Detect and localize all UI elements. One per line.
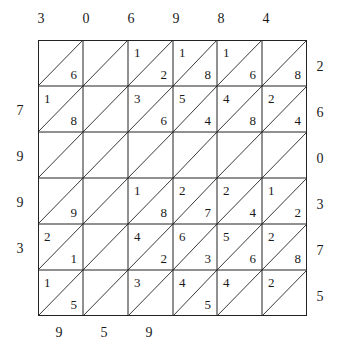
tens-digit: 1 — [223, 46, 230, 59]
multiplicand-digit: 6 — [121, 12, 141, 26]
lattice-cell: 18 — [38, 86, 83, 132]
result-digit: 9 — [10, 150, 30, 164]
multiplier-digit: 7 — [310, 244, 330, 258]
lattice-cell: 54 — [173, 86, 217, 132]
tens-digit: 1 — [134, 184, 141, 197]
lattice-cell — [217, 132, 262, 178]
ones-digit: 5 — [71, 298, 78, 311]
tens-digit: 4 — [134, 230, 141, 243]
multiplier-digit: 2 — [310, 60, 330, 74]
lattice-cell: 21 — [38, 224, 83, 270]
ones-digit: 5 — [205, 298, 212, 311]
tens-digit: 1 — [44, 92, 51, 105]
result-digit: 9 — [49, 326, 69, 340]
lattice-cell: 24 — [217, 178, 262, 224]
multiplicand-digit: 4 — [256, 12, 276, 26]
tens-digit: 1 — [268, 184, 275, 197]
tens-digit: 1 — [44, 276, 51, 289]
multiplier-digit: 0 — [310, 152, 330, 166]
ones-digit: 2 — [295, 206, 302, 219]
result-digit: 9 — [139, 326, 159, 340]
lattice-cell: 9 — [38, 178, 83, 224]
ones-digit: 8 — [71, 114, 78, 127]
ones-digit: 8 — [205, 68, 212, 81]
lattice-cell — [83, 270, 128, 316]
tens-digit: 2 — [268, 230, 275, 243]
lattice-cell — [83, 224, 128, 270]
tens-digit: 1 — [134, 46, 141, 59]
lattice-cell: 28 — [262, 224, 307, 270]
ones-digit: 7 — [205, 206, 212, 219]
tens-digit: 1 — [179, 46, 186, 59]
tens-digit: 5 — [179, 92, 186, 105]
ones-digit: 1 — [71, 252, 78, 265]
lattice-cell: 12 — [262, 178, 307, 224]
tens-digit: 2 — [44, 230, 51, 243]
lattice-cell: 18 — [128, 178, 173, 224]
lattice-cell: 3 — [128, 270, 173, 316]
tens-digit: 2 — [223, 184, 230, 197]
tens-digit: 3 — [134, 92, 141, 105]
lattice-cell: 63 — [173, 224, 217, 270]
lattice-cell: 24 — [262, 86, 307, 132]
ones-digit: 4 — [205, 114, 212, 127]
lattice-cell: 16 — [217, 40, 262, 86]
lattice-cell: 56 — [217, 224, 262, 270]
lattice-grid: 6121816818365448249182724122142635628153… — [38, 40, 307, 316]
lattice-cell — [262, 132, 307, 178]
tens-digit: 4 — [179, 276, 186, 289]
lattice-cell — [83, 40, 128, 86]
ones-digit: 2 — [161, 68, 168, 81]
multiplicand-digit: 0 — [76, 12, 96, 26]
ones-digit: 6 — [250, 68, 257, 81]
lattice-cell: 2 — [262, 270, 307, 316]
lattice-cell: 15 — [38, 270, 83, 316]
ones-digit: 8 — [161, 206, 168, 219]
result-digit: 5 — [94, 326, 114, 340]
tens-digit: 3 — [134, 276, 141, 289]
result-digit: 7 — [10, 104, 30, 118]
lattice-cell: 12 — [128, 40, 173, 86]
lattice-cell: 36 — [128, 86, 173, 132]
multiplicand-digit: 3 — [31, 12, 51, 26]
tens-digit: 2 — [179, 184, 186, 197]
multiplicand-digit: 8 — [211, 12, 231, 26]
ones-digit: 6 — [250, 252, 257, 265]
tens-digit: 2 — [268, 92, 275, 105]
ones-digit: 9 — [71, 206, 78, 219]
lattice-cell — [83, 86, 128, 132]
lattice-cell: 4 — [217, 270, 262, 316]
lattice-cell: 48 — [217, 86, 262, 132]
lattice-cell: 27 — [173, 178, 217, 224]
tens-digit: 6 — [179, 230, 186, 243]
lattice-cell: 18 — [173, 40, 217, 86]
lattice-cell — [83, 178, 128, 224]
ones-digit: 8 — [295, 68, 302, 81]
lattice-cell — [38, 132, 83, 178]
multiplicand-digit: 9 — [166, 12, 186, 26]
multiplier-digit: 6 — [310, 106, 330, 120]
ones-digit: 6 — [71, 68, 78, 81]
ones-digit: 2 — [161, 252, 168, 265]
lattice-cell — [83, 132, 128, 178]
multiplier-digit: 5 — [310, 290, 330, 304]
ones-digit: 8 — [250, 114, 257, 127]
lattice-cell: 45 — [173, 270, 217, 316]
tens-digit: 2 — [268, 276, 275, 289]
ones-digit: 6 — [161, 114, 168, 127]
multiplier-digit: 3 — [310, 198, 330, 212]
lattice-cell — [128, 132, 173, 178]
ones-digit: 8 — [295, 252, 302, 265]
ones-digit: 4 — [295, 114, 302, 127]
ones-digit: 3 — [205, 252, 212, 265]
result-digit: 3 — [10, 242, 30, 256]
ones-digit: 4 — [250, 206, 257, 219]
tens-digit: 5 — [223, 230, 230, 243]
tens-digit: 4 — [223, 276, 230, 289]
tens-digit: 4 — [223, 92, 230, 105]
lattice-cell — [173, 132, 217, 178]
result-digit: 9 — [10, 196, 30, 210]
lattice-cell: 8 — [262, 40, 307, 86]
lattice-cell: 42 — [128, 224, 173, 270]
lattice-cell: 6 — [38, 40, 83, 86]
